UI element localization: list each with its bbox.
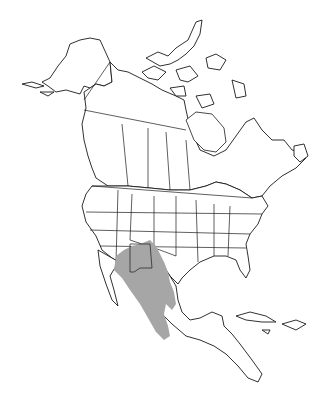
north-america-range-map <box>0 0 332 412</box>
jamaica <box>262 330 270 334</box>
hispaniola <box>282 320 306 330</box>
cuba <box>236 312 276 322</box>
